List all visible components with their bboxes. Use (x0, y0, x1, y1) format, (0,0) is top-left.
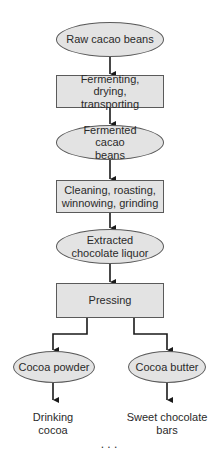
node-label: Pressing (89, 294, 132, 307)
node-extracted-chocolate-liquor: Extracted chocolate liquor (56, 229, 164, 264)
node-raw-cacao-beans: Raw cacao beans (56, 22, 164, 57)
output-label: Sweet chocolate bars (127, 411, 208, 436)
output-drinking-cocoa: Drinking cocoa (23, 411, 83, 436)
step-cleaning-roasting-winnowing-grinding: Cleaning, roasting, winnowing, grinding (56, 180, 164, 213)
step-pressing: Pressing (56, 283, 164, 318)
node-label: Cleaning, roasting, winnowing, grinding (60, 184, 160, 209)
node-label: Cocoa powder (19, 361, 90, 374)
node-cocoa-butter: Cocoa butter (128, 351, 206, 383)
node-label: Cocoa butter (136, 361, 199, 374)
node-label: Extracted chocolate liquor (71, 234, 149, 259)
node-label: Fermenting, drying, transporting (63, 73, 157, 111)
node-cocoa-powder: Cocoa powder (13, 351, 95, 383)
node-fermented-cacao-beans: Fermented cacao beans (56, 125, 164, 160)
node-label: Fermented cacao beans (83, 124, 137, 162)
node-label: Raw cacao beans (66, 33, 153, 46)
step-fermenting-drying-transporting: Fermenting, drying, transporting (56, 75, 164, 108)
output-label: Drinking cocoa (33, 411, 73, 436)
output-sweet-chocolate-bars: Sweet chocolate bars (122, 411, 212, 436)
cut-off-caption: . . . (0, 437, 218, 451)
